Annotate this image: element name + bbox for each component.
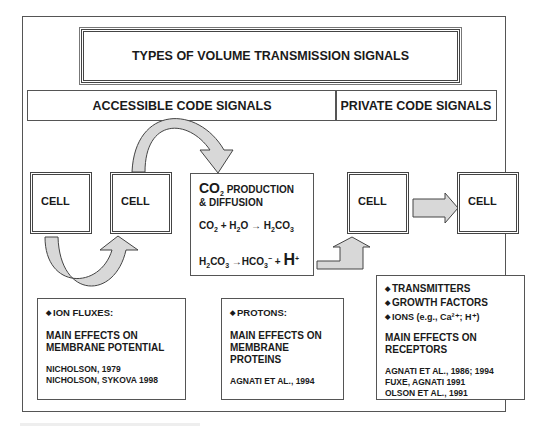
bullet-text: ION FLUXES: [53, 307, 113, 318]
effect-refs: AGNATI ET AL., 1986; 1994 FUXE, AGNATI 1… [385, 366, 516, 399]
effect-bullet: ◆PROTONS: [230, 307, 335, 318]
cell-label: CELL [358, 195, 387, 207]
eq2-proton: H [283, 251, 295, 268]
reference: AGNATI ET AL., 1994 [230, 376, 335, 387]
effect-bullets: ◆TRANSMITTERS ◆GROWTH FACTORS ◆IONS (e.g… [385, 282, 516, 324]
reference: AGNATI ET AL., 1986; 1994 [385, 366, 516, 377]
diamond-bullet-icon: ◆ [385, 285, 390, 292]
diamond-bullet-icon: ◆ [46, 309, 51, 316]
co2-production-box: CO2 PRODUCTION & DIFFUSION CO2 + H2O → H… [190, 173, 314, 276]
main-line: RECEPTORS [385, 344, 516, 356]
diamond-bullet-icon: ◆ [385, 313, 390, 320]
cell-1: CELL [30, 172, 92, 234]
main-line: MAIN EFFECTS ON [230, 330, 335, 342]
eq1-a: CO [199, 220, 214, 231]
bullet-text: TRANSMITTERS [392, 283, 470, 294]
co2-title: CO2 PRODUCTION [199, 180, 305, 197]
cell-3: CELL [347, 172, 409, 234]
cell-2: CELL [110, 172, 172, 234]
effect-main: MAIN EFFECTS ON RECEPTORS [385, 332, 516, 356]
diamond-bullet-icon: ◆ [230, 309, 235, 316]
cell-label: CELL [41, 195, 70, 207]
curved-arrow-top [132, 119, 233, 173]
eq1-d-sub: 3 [290, 226, 294, 233]
cell-label: CELL [468, 195, 497, 207]
eq1-c: O → H [240, 220, 271, 231]
bullet-text: PROTONS: [237, 307, 287, 318]
diamond-bullet-icon: ◆ [385, 299, 390, 306]
main-line: MEMBRANE POTENTIAL [46, 342, 177, 354]
reference: NICHOLSON, SYKOVA 1998 [46, 375, 177, 386]
bullet-text: GROWTH FACTORS [392, 297, 488, 308]
equation-2: H2CO3 →HCO3− + H+ [199, 251, 305, 269]
effect-main: MAIN EFFECTS ON MEMBRANE POTENTIAL [46, 330, 177, 354]
main-line: MEMBRANE PROTEINS [230, 342, 335, 366]
eq2-b: CO [210, 256, 225, 267]
faint-caption [20, 423, 200, 426]
straight-arrow [413, 193, 458, 223]
curved-arrow-bottom [45, 236, 138, 286]
effect-refs: NICHOLSON, 1979 NICHOLSON, SYKOVA 1998 [46, 364, 177, 386]
co2-title-co: CO [199, 180, 220, 196]
eq1-d: CO [275, 220, 290, 231]
cell-label: CELL [121, 195, 150, 207]
cell-4: CELL [457, 172, 519, 234]
eq2-c-sub: 3 [264, 262, 268, 269]
effect-refs: AGNATI ET AL., 1994 [230, 376, 335, 387]
reference: OLSON ET AL., 1991 [385, 388, 516, 399]
equation-1: CO2 + H2O → H2CO3 [199, 220, 305, 233]
ion-fluxes-box: ◆ION FLUXES: MAIN EFFECTS ON MEMBRANE PO… [37, 298, 186, 400]
co2-title-rest: PRODUCTION [224, 184, 294, 195]
receptors-box: ◆TRANSMITTERS ◆GROWTH FACTORS ◆IONS (e.g… [376, 275, 525, 400]
eq2-c: →HCO [229, 256, 264, 267]
eq2-proton-sup: + [295, 255, 299, 262]
effect-main: MAIN EFFECTS ON MEMBRANE PROTEINS [230, 330, 335, 366]
main-line: MAIN EFFECTS ON [385, 332, 516, 344]
main-line: MAIN EFFECTS ON [46, 330, 177, 342]
co2-title-line2: & DIFFUSION [199, 197, 305, 208]
reference: NICHOLSON, 1979 [46, 364, 177, 375]
protons-box: ◆PROTONS: MAIN EFFECTS ON MEMBRANE PROTE… [221, 298, 344, 400]
proton-arrow [317, 237, 370, 269]
bullet-text: IONS (e.g., Ca²⁺; H⁺) [392, 312, 480, 322]
effect-bullet: ◆ION FLUXES: [46, 307, 177, 318]
eq2-d: + [272, 256, 283, 267]
reference: FUXE, AGNATI 1991 [385, 377, 516, 388]
eq1-b: + H [218, 220, 237, 231]
